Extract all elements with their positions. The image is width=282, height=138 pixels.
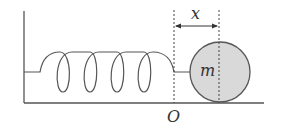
spring-mass-diagram: x m O [0, 0, 282, 138]
diagram-canvas [0, 0, 282, 138]
displacement-label: x [191, 6, 200, 22]
displacement-arrow [175, 24, 218, 29]
origin-label: O [167, 109, 180, 125]
mass-label: m [200, 63, 215, 79]
spring [24, 52, 190, 92]
mass-ball [190, 42, 250, 102]
